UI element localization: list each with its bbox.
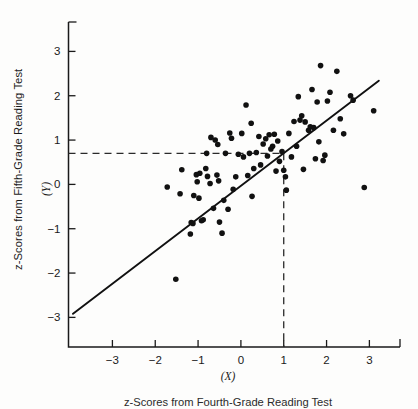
data-point — [217, 219, 223, 225]
data-point — [239, 131, 245, 137]
data-point — [194, 179, 200, 185]
data-point — [291, 119, 297, 125]
data-point — [249, 194, 255, 200]
y-tick-label: −3 — [47, 311, 60, 323]
data-point — [272, 132, 278, 138]
data-point — [230, 186, 236, 192]
data-point — [311, 125, 317, 131]
data-point — [204, 151, 210, 157]
data-point — [243, 102, 249, 108]
data-point — [313, 156, 319, 162]
data-point — [258, 162, 264, 168]
data-point — [254, 150, 260, 156]
data-point — [241, 154, 247, 160]
data-point — [236, 151, 242, 157]
data-point — [215, 142, 221, 148]
data-point — [284, 187, 290, 193]
data-point — [281, 167, 287, 173]
data-point — [177, 191, 183, 197]
x-tick-label: 2 — [323, 354, 329, 366]
data-point — [223, 151, 229, 157]
data-point — [275, 138, 281, 144]
data-point — [214, 172, 220, 178]
data-point — [205, 174, 211, 180]
x-tick-label: −2 — [149, 354, 162, 366]
data-point — [256, 134, 262, 140]
data-point — [200, 217, 206, 223]
data-point — [247, 151, 253, 157]
data-point — [325, 98, 331, 104]
data-point — [279, 149, 285, 155]
data-point — [286, 131, 292, 137]
y-tick-label: −1 — [47, 223, 60, 235]
data-point — [191, 193, 197, 199]
plot-group: −3−2−10123−3−2−10123 — [47, 22, 400, 366]
x-tick-label: −3 — [106, 354, 119, 366]
data-point — [173, 276, 179, 282]
data-point — [277, 159, 283, 165]
data-point — [371, 108, 377, 114]
data-point — [265, 153, 271, 159]
data-point — [221, 198, 227, 204]
data-point — [273, 168, 279, 174]
x-tick-label: 3 — [366, 354, 372, 366]
data-point — [190, 221, 196, 227]
data-point — [302, 119, 308, 125]
data-point — [295, 94, 301, 100]
data-point — [299, 113, 305, 119]
data-point — [251, 166, 257, 172]
data-points — [164, 63, 376, 282]
regression-line-path — [73, 81, 379, 314]
data-point — [331, 128, 337, 134]
data-point — [337, 116, 343, 122]
data-point — [320, 158, 326, 164]
data-point — [260, 141, 266, 147]
data-point — [179, 167, 185, 173]
data-point — [248, 120, 254, 126]
data-point — [361, 185, 367, 191]
data-point — [219, 230, 225, 236]
plot-canvas: −3−2−10123−3−2−10123 — [0, 0, 418, 409]
y-tick-label: 2 — [54, 90, 60, 102]
data-point — [283, 174, 289, 180]
data-point — [225, 206, 231, 212]
data-point — [216, 178, 222, 184]
data-point — [301, 167, 307, 173]
x-tick-label: −1 — [192, 354, 205, 366]
data-point — [350, 97, 356, 103]
axis-frame — [69, 22, 401, 347]
data-point — [270, 143, 276, 149]
guide-lines — [69, 153, 284, 347]
data-point — [316, 139, 322, 145]
x-tick-label: 1 — [281, 354, 287, 366]
data-point — [334, 69, 340, 75]
data-point — [327, 89, 333, 95]
data-point — [245, 173, 251, 179]
data-point — [266, 132, 272, 138]
y-tick-label: 3 — [54, 45, 60, 57]
tick-labels: −3−2−10123−3−2−10123 — [47, 45, 372, 366]
data-point — [341, 131, 347, 137]
y-tick-label: −2 — [47, 267, 60, 279]
axes — [69, 22, 401, 347]
data-point — [309, 87, 315, 93]
data-point — [294, 143, 300, 149]
data-point — [207, 181, 213, 187]
regression-line — [73, 81, 379, 314]
data-point — [164, 184, 170, 190]
data-point — [211, 206, 217, 212]
y-tick-label: 0 — [54, 178, 60, 190]
scatter-plot-figure: −3−2−10123−3−2−10123 z-Scores from Fifth… — [0, 0, 418, 409]
data-point — [289, 154, 295, 160]
data-point — [203, 166, 209, 172]
data-point — [233, 174, 239, 180]
y-tick-label: 1 — [54, 134, 60, 146]
data-point — [196, 195, 202, 201]
data-point — [227, 130, 233, 136]
data-point — [318, 63, 324, 69]
data-point — [197, 171, 203, 177]
data-point — [188, 231, 194, 237]
x-tick-label: 0 — [238, 354, 244, 366]
data-point — [314, 99, 320, 105]
data-point — [229, 136, 235, 142]
